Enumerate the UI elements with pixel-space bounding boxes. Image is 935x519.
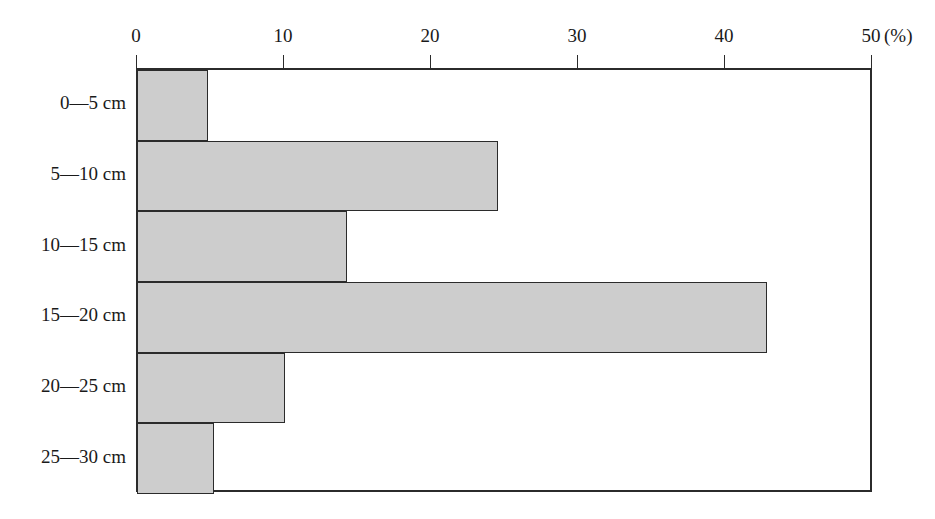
- x-tick-label-0: 0: [131, 26, 141, 46]
- bar-3: [137, 282, 767, 353]
- y-category-label-2: 10—15 cm: [0, 235, 126, 255]
- x-tick-label-30: 30: [568, 26, 587, 46]
- bar-2: [137, 211, 347, 282]
- bar-5: [137, 423, 214, 494]
- bar-4: [137, 353, 285, 424]
- y-category-label-0: 0—5 cm: [0, 93, 126, 113]
- x-tick-label-20: 20: [421, 26, 440, 46]
- bar-row-5: [138, 423, 870, 494]
- x-tick-mark-50: [871, 55, 872, 69]
- x-axis-unit-label: (%): [884, 26, 912, 46]
- x-tick-label-50: 50: [862, 26, 881, 46]
- x-tick-mark-10: [283, 55, 284, 69]
- y-axis-category-labels: 0—5 cm 5—10 cm 10—15 cm 15—20 cm 20—25 c…: [0, 0, 126, 519]
- x-tick-mark-20: [430, 55, 431, 69]
- bar-row-3: [138, 282, 870, 353]
- bar-row-1: [138, 141, 870, 212]
- bar-row-4: [138, 353, 870, 424]
- y-category-label-5: 25—30 cm: [0, 447, 126, 467]
- bar-chart: 0 10 20 30 40 50 (%) 0—5 cm 5—10 cm 10—1…: [0, 0, 935, 519]
- x-tick-mark-40: [724, 55, 725, 69]
- y-category-label-1: 5—10 cm: [0, 164, 126, 184]
- x-tick-label-40: 40: [715, 26, 734, 46]
- y-category-label-4: 20—25 cm: [0, 376, 126, 396]
- y-category-label-3: 15—20 cm: [0, 305, 126, 325]
- bar-row-2: [138, 211, 870, 282]
- bar-0: [137, 70, 208, 141]
- bar-1: [137, 141, 498, 212]
- x-tick-mark-0: [136, 55, 137, 69]
- bar-row-0: [138, 70, 870, 141]
- plot-area: [136, 68, 872, 492]
- x-tick-mark-30: [577, 55, 578, 69]
- x-tick-label-10: 10: [274, 26, 293, 46]
